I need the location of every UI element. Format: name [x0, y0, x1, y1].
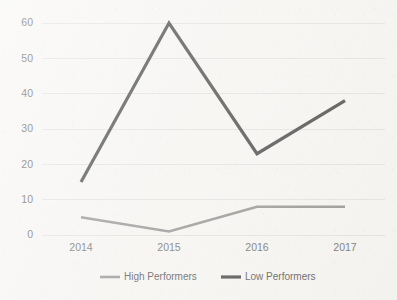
- x-axis-tick-label: 2015: [157, 241, 181, 253]
- chart-canvas: 0102030405060 2014201520162017 High Perf…: [0, 0, 397, 300]
- series-line-high-performers: [81, 207, 345, 232]
- x-axis-tick-label: 2016: [245, 241, 269, 253]
- legend-label-0[interactable]: High Performers: [124, 271, 197, 282]
- x-axis-tick-label: 2017: [333, 241, 357, 253]
- y-axis-tick-label: 40: [21, 87, 33, 99]
- y-axis-tick-label: 0: [27, 228, 33, 240]
- y-axis-tick-label: 50: [21, 52, 33, 64]
- y-axis-tick-labels: 0102030405060: [21, 16, 33, 240]
- chart-legend: High PerformersLow Performers: [100, 271, 316, 282]
- y-axis-tick-label: 60: [21, 16, 33, 28]
- y-axis-tick-label: 30: [21, 122, 33, 134]
- x-axis-tick-labels: 2014201520162017: [69, 241, 357, 253]
- series-line-low-performers: [81, 23, 345, 182]
- y-axis-tick-label: 10: [21, 193, 33, 205]
- line-chart: 0102030405060 2014201520162017 High Perf…: [0, 0, 397, 300]
- legend-label-1[interactable]: Low Performers: [245, 271, 316, 282]
- x-axis-tick-label: 2014: [69, 241, 93, 253]
- data-series-group: [81, 23, 345, 231]
- y-axis-tick-label: 20: [21, 158, 33, 170]
- gridlines: [42, 23, 385, 235]
